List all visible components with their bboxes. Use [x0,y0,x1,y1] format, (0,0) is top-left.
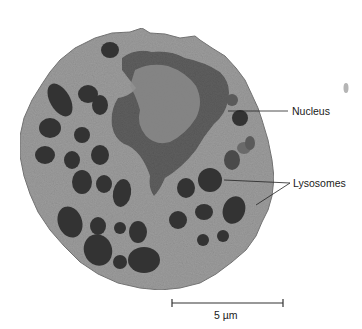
artifact-speck [344,83,349,93]
scale-bar [172,299,283,307]
cell-micrograph [0,0,362,329]
micrograph-figure: Nucleus Lysosomes 5 µm [0,0,362,329]
lysosomes-label: Lysosomes [293,178,346,189]
nucleus-label: Nucleus [292,106,330,117]
scale-bar-label: 5 µm [214,310,238,321]
